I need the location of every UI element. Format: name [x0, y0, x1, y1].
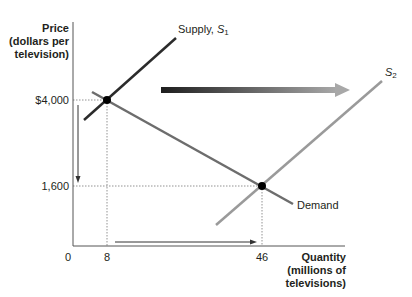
y-axis-title-line2: (dollars per [0, 35, 69, 48]
xtick-8: 8 [97, 251, 117, 264]
y-axis-title-line3: television) [0, 48, 69, 61]
y-axis-title-line1: Price [0, 22, 69, 35]
equilibrium-point-1 [103, 96, 111, 104]
supply-s1-label: Supply, S1 [178, 23, 229, 39]
guide-lines [73, 100, 262, 246]
x-axis-title-line3: televisions) [280, 277, 346, 290]
supply-curve-s1 [84, 38, 176, 120]
xtick-0: 0 [58, 251, 78, 264]
x-axis-title-line1: Quantity [280, 251, 346, 264]
ytick-4000: $4,000 [0, 94, 69, 107]
x-axis-title: Quantity (millions of televisions) [280, 251, 346, 290]
x-axis-title-line2: (millions of [280, 264, 346, 277]
demand-label: Demand [297, 199, 339, 212]
price-decrease-arrow [76, 105, 81, 183]
equilibrium-point-2 [258, 182, 266, 190]
axes [73, 22, 345, 246]
supply-s2-label: S2 [385, 66, 397, 82]
supply-shift-arrow [161, 83, 350, 97]
xtick-46: 46 [250, 251, 274, 264]
y-axis-title: Price (dollars per television) [0, 22, 69, 61]
quantity-increase-arrow [115, 240, 257, 245]
ytick-1600: 1,600 [0, 180, 69, 193]
